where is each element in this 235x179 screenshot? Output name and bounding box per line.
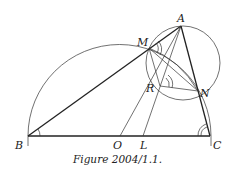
geometry-figure: A M R N B C O L Figure 2004/1.1. (0, 0, 235, 179)
label-m: M (136, 36, 149, 49)
figure-caption: Figure 2004/1.1. (72, 153, 162, 165)
segment-al (143, 26, 181, 136)
segment-rn (160, 86, 198, 91)
label-c: C (213, 139, 222, 152)
label-l: L (139, 139, 147, 152)
label-r: R (145, 82, 154, 95)
angle-mark-c-2 (198, 124, 206, 136)
label-n: N (199, 87, 210, 100)
segment-ab (28, 26, 181, 136)
semicircle-arc (28, 44, 211, 146)
label-o: O (113, 139, 122, 152)
label-b: B (14, 139, 23, 152)
segment-ac (181, 26, 210, 136)
angle-mark-b (38, 129, 40, 136)
segment-or (120, 26, 181, 136)
angle-mark-c-1 (201, 127, 207, 136)
angle-mark-r-1 (166, 78, 169, 87)
segment-mn (149, 48, 198, 91)
label-a: A (176, 12, 185, 25)
